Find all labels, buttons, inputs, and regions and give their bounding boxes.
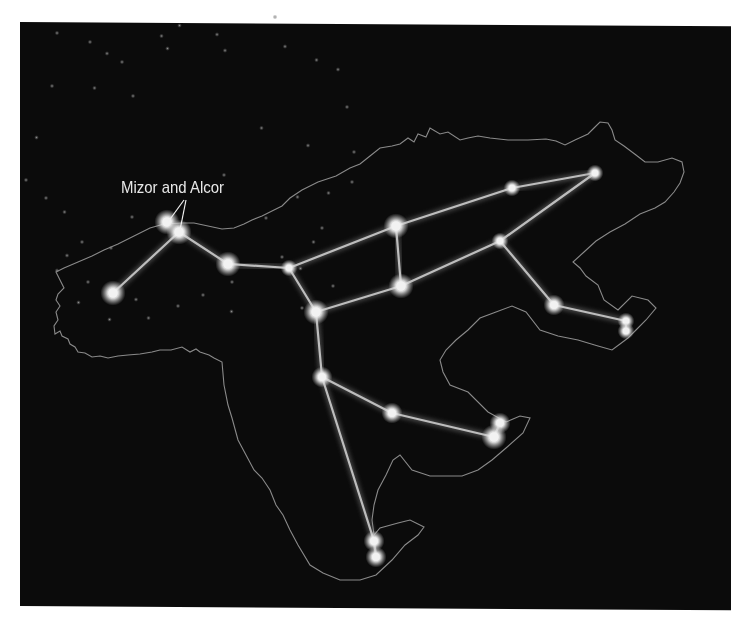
background-star — [107, 317, 112, 322]
background-star — [264, 216, 269, 221]
background-star — [331, 284, 336, 289]
mizar-alcor-label: Mizor and Alcor — [121, 178, 224, 198]
background-star — [280, 255, 285, 260]
background-star — [222, 173, 227, 178]
background-star — [62, 210, 67, 215]
background-star — [259, 126, 264, 131]
constellation-diagram — [0, 0, 748, 623]
background-star — [130, 215, 135, 220]
background-star — [50, 84, 55, 89]
background-star — [230, 280, 235, 285]
background-star — [176, 304, 181, 309]
background-star — [120, 60, 125, 65]
background-star — [34, 135, 39, 140]
background-star — [24, 178, 29, 183]
background-star — [44, 196, 49, 201]
star-shoulder — [497, 238, 503, 244]
background-star — [215, 32, 220, 37]
background-star — [134, 297, 139, 302]
background-star — [88, 40, 93, 45]
star-hind-paw-2 — [489, 432, 499, 442]
background-star — [283, 44, 288, 49]
star-upper-body — [391, 221, 401, 231]
background-star — [201, 293, 206, 298]
constellation-line — [401, 241, 500, 286]
star-neck — [509, 185, 515, 191]
background-star — [159, 34, 164, 39]
constellation-line — [289, 226, 396, 268]
background-star — [229, 309, 234, 314]
star-nose — [592, 170, 598, 176]
background-star — [311, 240, 316, 245]
constellation-line — [316, 286, 401, 312]
background-star — [86, 280, 91, 285]
background-star — [177, 23, 182, 28]
background-star — [55, 31, 60, 36]
background-star — [352, 150, 357, 155]
background-star — [76, 300, 81, 305]
star-hind-knee — [388, 409, 396, 417]
background-star — [314, 58, 319, 63]
background-star — [80, 240, 85, 245]
background-star — [105, 51, 110, 56]
background-star — [336, 67, 341, 72]
background-stars — [24, 15, 357, 322]
background-star — [306, 143, 311, 148]
star-alioth — [223, 259, 233, 269]
background-star — [223, 48, 228, 53]
constellation-line — [500, 241, 554, 305]
background-star — [146, 316, 151, 321]
star-back-paw-1 — [370, 537, 378, 545]
star-back-paw-2 — [372, 553, 380, 561]
background-star — [131, 94, 136, 99]
star-tail-end — [108, 288, 118, 298]
background-star — [165, 46, 170, 51]
star-phecda — [311, 307, 321, 317]
background-star — [273, 15, 278, 20]
star-alcor — [174, 227, 184, 237]
background-star — [295, 195, 300, 200]
background-star — [92, 86, 97, 91]
background-star — [345, 105, 350, 110]
background-star — [65, 253, 70, 258]
star-megrez — [286, 265, 292, 271]
star-lower-body — [396, 281, 406, 291]
constellation-line — [396, 188, 512, 226]
star-front-knee — [550, 301, 558, 309]
star-front-paw-2 — [623, 328, 629, 334]
star-hip — [318, 373, 326, 381]
background-star — [320, 226, 325, 231]
background-star — [350, 180, 355, 185]
background-star — [326, 191, 331, 196]
constellation-line — [392, 413, 494, 437]
